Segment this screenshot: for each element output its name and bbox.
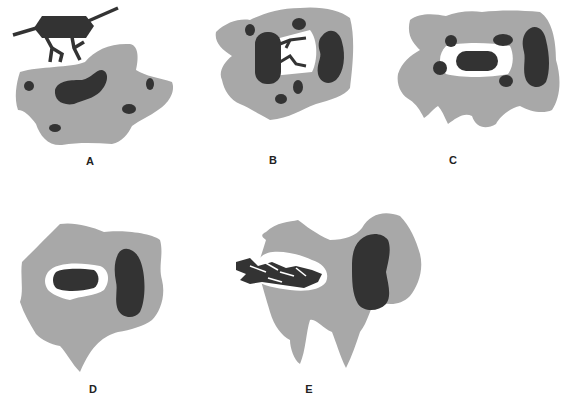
granule bbox=[445, 35, 457, 47]
panel-label-d: D bbox=[89, 383, 97, 395]
panel-d-figure bbox=[20, 223, 163, 372]
granule bbox=[146, 78, 154, 90]
panel-label-c: C bbox=[449, 154, 457, 166]
bacterium-body bbox=[53, 269, 99, 291]
granule bbox=[24, 81, 34, 91]
nucleus bbox=[352, 234, 390, 310]
granule bbox=[292, 18, 306, 30]
panel-label-e: E bbox=[305, 383, 312, 395]
bacterium-body bbox=[34, 16, 94, 38]
granule bbox=[49, 124, 61, 132]
granule bbox=[122, 104, 136, 114]
granule bbox=[275, 94, 287, 104]
panel-label-a: A bbox=[86, 155, 94, 167]
panel-c-figure bbox=[398, 11, 560, 128]
phagocyte-cell bbox=[259, 213, 422, 368]
granule bbox=[499, 75, 513, 87]
phagocytosis-diagram bbox=[0, 0, 579, 410]
granule bbox=[433, 61, 447, 75]
granule bbox=[493, 34, 513, 46]
granule bbox=[245, 24, 255, 36]
panel-a-figure bbox=[13, 8, 173, 145]
panel-label-b: B bbox=[269, 154, 277, 166]
granule bbox=[293, 80, 303, 94]
bacterium-body bbox=[456, 51, 498, 71]
panel-e-figure bbox=[236, 213, 421, 368]
panel-b-figure bbox=[216, 7, 353, 120]
bacterium-body bbox=[255, 32, 281, 84]
